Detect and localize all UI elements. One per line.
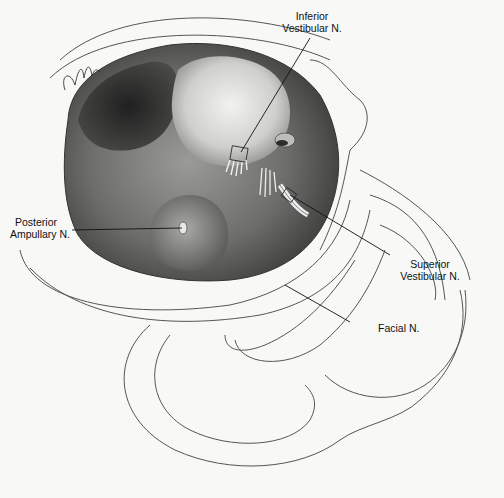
anatomical-illustration: Inferior Vestibular N. Posterior Ampulla…: [0, 0, 504, 498]
label-line: Ampullary N.: [2, 228, 70, 240]
label-line: Superior: [390, 258, 470, 270]
label-facial-nerve: Facial N.: [378, 322, 419, 334]
label-line: Vestibular N.: [272, 22, 352, 34]
illustration-drawing: [0, 0, 504, 498]
label-inferior-vestibular-nerve: Inferior Vestibular N.: [272, 10, 352, 34]
vestibular-crest: [172, 56, 290, 166]
label-line: Vestibular N.: [390, 270, 470, 282]
label-posterior-ampullary-nerve: Posterior Ampullary N.: [2, 216, 70, 240]
label-line: Posterior: [2, 216, 70, 228]
label-line: Inferior: [272, 10, 352, 22]
label-superior-vestibular-nerve: Superior Vestibular N.: [390, 258, 470, 282]
label-line: Facial N.: [378, 322, 419, 334]
